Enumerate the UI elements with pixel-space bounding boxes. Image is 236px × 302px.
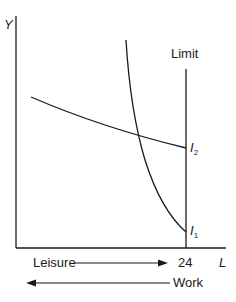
leisure-label: Leisure xyxy=(33,256,76,269)
x-axis-label: L xyxy=(219,256,226,269)
limit-tick-label: 24 xyxy=(178,256,192,269)
curve-label-i2-sub: 2 xyxy=(194,148,198,157)
leisure-arrow-head xyxy=(158,260,168,267)
curve-label-i2: I2 xyxy=(190,141,198,154)
curve-label-i1: I1 xyxy=(190,224,198,237)
y-axis-label: Y xyxy=(4,18,13,31)
work-arrow-head xyxy=(26,280,36,287)
curve-label-i1-sub: 1 xyxy=(194,231,198,240)
labor-leisure-diagram: Y L Limit 24 I2 I1 Leisure Work xyxy=(0,0,236,302)
indifference-curve-i2 xyxy=(31,97,186,148)
limit-label: Limit xyxy=(171,47,198,60)
indifference-curve-i1 xyxy=(126,40,186,232)
work-label: Work xyxy=(173,276,203,289)
